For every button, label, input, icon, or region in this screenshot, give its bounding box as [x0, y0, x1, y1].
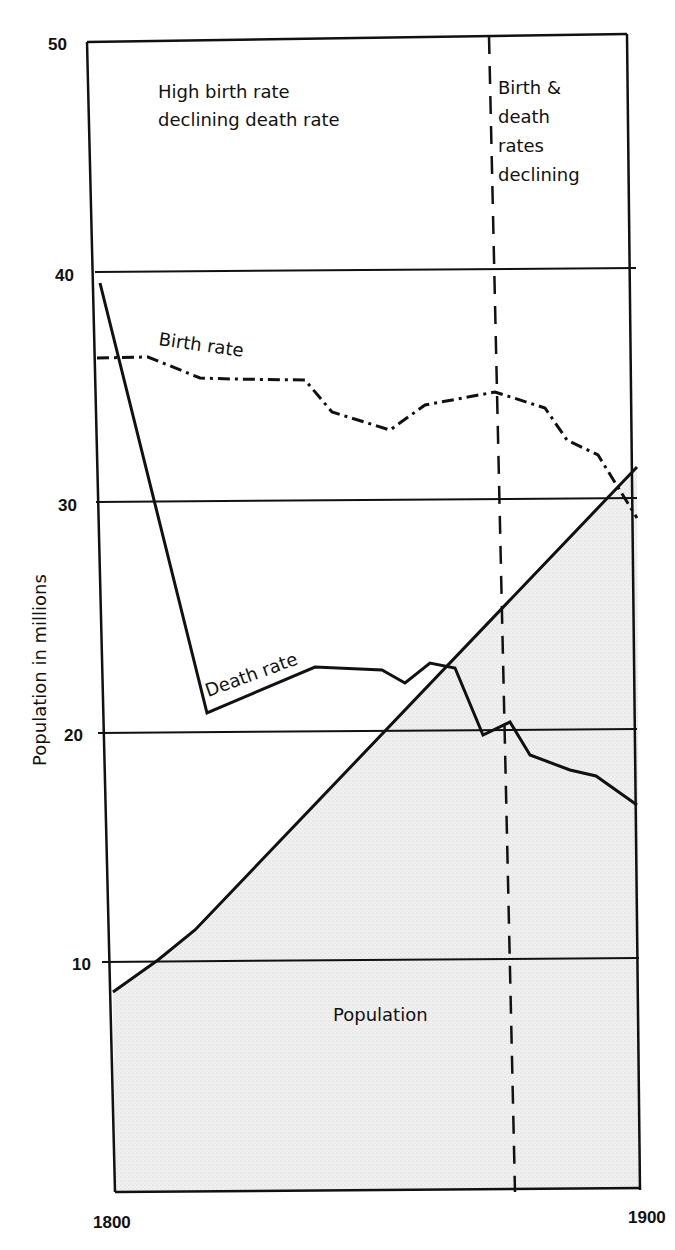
y-tick-50: 50 [48, 35, 67, 54]
x-tick-1900: 1900 [628, 1208, 666, 1227]
phase2-annotation-line4: declining [498, 164, 580, 185]
y-tick-40: 40 [55, 266, 74, 285]
birth-rate-label: Birth rate [157, 328, 245, 361]
phase2-annotation-line2: death [498, 106, 550, 127]
y-tick-30: 30 [58, 496, 77, 515]
chart: 50 40 30 20 10 1800 1900 Population in m… [0, 0, 675, 1250]
y-tick-10: 10 [72, 955, 91, 974]
y-axis-label: Population in millions [29, 574, 50, 766]
population-label: Population [333, 1004, 428, 1025]
phase2-annotation-line3: rates [498, 135, 544, 156]
birth-rate-line [97, 357, 637, 518]
population-area [113, 467, 640, 1192]
phase2-annotation-line1: Birth & [498, 77, 561, 98]
y-tick-20: 20 [64, 726, 83, 745]
x-tick-1800: 1800 [93, 1213, 131, 1232]
phase1-annotation-line2: declining death rate [158, 109, 340, 130]
phase1-annotation-line1: High birth rate [158, 81, 290, 102]
